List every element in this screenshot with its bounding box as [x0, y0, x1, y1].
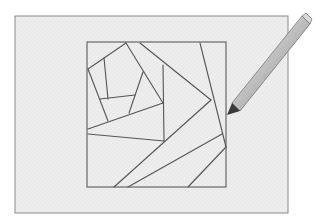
- paper-sheet: [15, 16, 288, 213]
- quilt-diagram: [0, 0, 316, 224]
